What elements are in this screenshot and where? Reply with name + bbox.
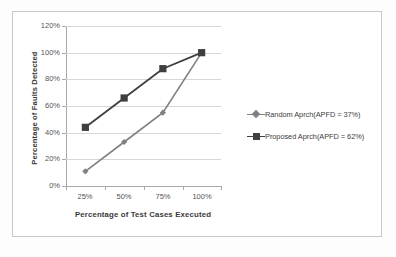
- legend-square-marker-icon: [247, 130, 265, 142]
- legend-label-random: Random Aprch(APFD = 37%): [265, 110, 361, 119]
- data-point-marker: [198, 49, 205, 56]
- series-markers-proposed: [82, 49, 205, 131]
- legend-item-random[interactable]: Random Aprch(APFD = 37%): [247, 103, 377, 125]
- legend-diamond-marker-icon: [247, 108, 265, 120]
- series-markers-random: [82, 50, 204, 175]
- legend-item-proposed[interactable]: Proposed Aprch(APFD = 62%): [247, 125, 377, 147]
- series-line-proposed: [85, 53, 201, 128]
- x-axis-title: Percentage of Test Cases Executed: [48, 210, 238, 219]
- series-line-random: [85, 53, 201, 172]
- data-point-marker: [82, 124, 89, 131]
- chart-legend: Random Aprch(APFD = 37%) Proposed Aprch(…: [247, 103, 377, 147]
- data-point-marker: [121, 94, 128, 101]
- legend-label-proposed: Proposed Aprch(APFD = 62%): [265, 132, 364, 141]
- y-axis-title: Percentage of Faults Detected: [30, 28, 42, 188]
- data-point-marker: [159, 65, 166, 72]
- chart-figure: 120% 100% 80% 60% 40% 20% 0% 25% 50% 75%…: [0, 0, 396, 257]
